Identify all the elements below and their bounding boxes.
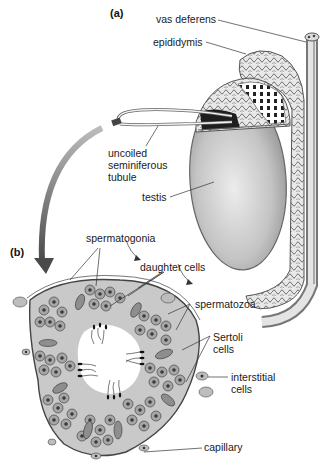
label-spermatozoa: spermatozoa bbox=[195, 299, 256, 310]
label-spermatogonia: spermatogonia bbox=[86, 233, 155, 244]
label-uncoiled-2: seminiferous bbox=[108, 160, 168, 171]
label-uncoiled-3: tubule bbox=[108, 172, 137, 183]
label-daughter-cells: daughter cells bbox=[140, 262, 205, 273]
label-interstitial-1: interstitial bbox=[231, 372, 275, 383]
label-vas-deferens: vas deferens bbox=[156, 14, 216, 25]
panel-label-b: (b) bbox=[10, 246, 24, 258]
panel-label-a: (a) bbox=[110, 7, 123, 19]
tubule-cross-section bbox=[13, 275, 213, 459]
label-sertoli-2: cells bbox=[213, 344, 234, 355]
diagram-artwork bbox=[0, 0, 328, 467]
label-sertoli-1: Sertoli bbox=[213, 332, 243, 343]
label-interstitial-2: cells bbox=[231, 384, 252, 395]
testis bbox=[184, 78, 292, 273]
label-epididymis: epididymis bbox=[153, 37, 203, 48]
arrow-head-icon bbox=[34, 258, 54, 274]
label-capillary: capillary bbox=[204, 442, 243, 453]
label-uncoiled-1: uncoiled bbox=[108, 148, 147, 159]
label-testis: testis bbox=[142, 192, 167, 203]
figure: (a) (b) vas deferens epididymis uncoiled… bbox=[0, 0, 328, 467]
